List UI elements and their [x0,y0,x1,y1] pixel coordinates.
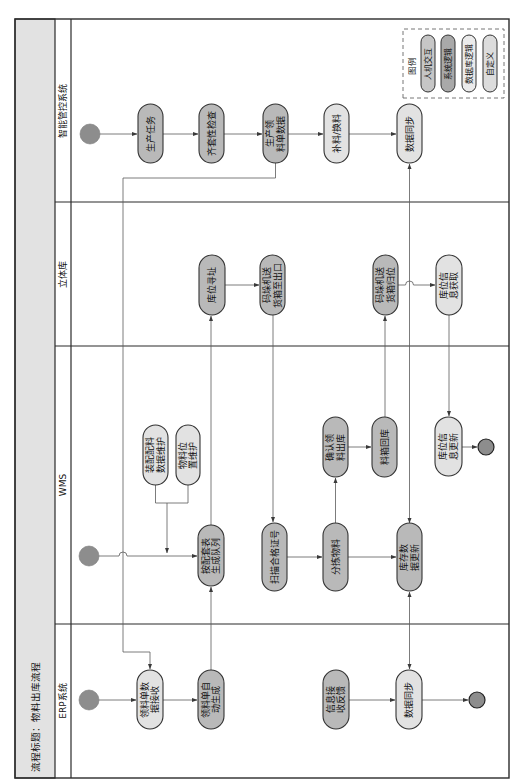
process-node-label-line: 置维护 [187,442,198,469]
process-node: 库位信息获取 [436,255,462,315]
process-node-label-line: 数据同步 [404,116,415,152]
process-node-label: 码垛机送货箱归位 [374,267,395,303]
process-node: 领料单数据接收 [137,670,163,729]
process-node: 扫描合格证号 [262,523,287,591]
process-node-label: 物料位置维护 [177,442,198,469]
process-node-label-line: 确认领 [324,434,335,461]
process-node-label-line: 动生成 [210,686,221,713]
legend: 图例 人机交互 系统逻辑 数据库逻辑 自定义 [403,29,504,98]
process-node-label-line: 据接收 [149,686,160,713]
process-node-label-line: 货箱归位 [385,267,396,303]
legend-title: 图例 [407,57,417,75]
process-node-label-line: 按配套表 [200,538,211,574]
start-node-wms [79,546,99,566]
process-node-label-line: 码垛机送 [374,267,385,303]
legend-label: 数据库逻辑 [464,44,474,84]
edges-layer [99,134,477,700]
process-node: 数据同步 [397,104,422,163]
process-node: 码垛机送货箱至出口 [260,255,285,315]
process-node-label: 生产领料单数据 [264,116,285,152]
process-node-label: 补料/换料 [331,114,342,153]
process-node-label-line: 料出库 [335,434,346,461]
process-node-label: 领料单数据接收 [139,682,160,718]
process-node: 物料位置维护 [176,425,200,485]
process-node-label: 料箱回库 [379,429,390,465]
process-node-label: 码垛机送货箱至出口 [261,263,282,308]
process-node-label: 生产任务 [145,116,156,152]
process-node: 齐套性检查 [199,104,224,163]
process-node-label-line: 数据同步 [403,682,414,718]
process-node: 领料单自动生成 [198,670,224,729]
swimlane-flowchart: 流程标题：物料出库流程 ERP系统 WMS 立体库 智能管控系统 [0,0,522,782]
process-node: 生产领料单数据 [263,104,288,163]
process-node-label-line: 扫描合格证号 [269,530,280,584]
legend-item-human-interaction: 人机交互 [421,35,435,92]
legend-item-system-logic: 系统逻辑 [441,35,455,92]
process-node-label: 分拣物料 [330,539,341,575]
process-node-label-line: 据更新 [409,544,420,571]
end-node-erp [469,692,485,708]
process-node-label-line: 生产任务 [145,116,156,152]
process-node-label-line: 分拣物料 [330,539,341,575]
process-node-label-line: 物料位 [177,442,188,469]
process-node-label-line: 信息接 [325,686,336,713]
process-node-label-line: 生产领 [264,120,275,147]
process-node: 生产任务 [138,104,163,163]
edge-picklist-to-receive [123,163,276,669]
process-node-label: 库位信息获取 [438,272,459,299]
process-node-label: 数据同步 [403,682,414,718]
process-node: 数据同步 [396,670,422,729]
lane-label-asrs: 立体库 [57,261,68,288]
process-node: 库位寻址 [199,255,225,315]
process-node-label: 扫描合格证号 [269,530,280,584]
process-node-label: 确认领料出库 [324,434,345,461]
process-node-label-line: 数据维护 [155,437,166,473]
process-node-label: 装配配料数据维护 [144,437,165,473]
edge-maintenance-merge-to-queue [156,485,189,553]
diagram-canvas: 流程标题：物料出库流程 ERP系统 WMS 立体库 智能管控系统 [15,19,509,778]
process-node-label-line: 补料/换料 [331,114,342,153]
lane-label-control-system: 智能管控系统 [57,84,68,138]
end-node-wms [478,439,494,455]
lane-label-erp: ERP系统 [57,683,68,718]
process-node: 按配套表生成队列 [198,525,224,586]
edge-wms-start-to-queue [99,552,197,556]
process-nodes-layer: 领料单数据接收领料单自动生成信息接收反馈数据同步装配配料数据维护物料位置维护按配… [137,104,462,729]
process-node-label: 按配套表生成队列 [200,538,221,574]
process-node-label-line: 库位信 [438,272,449,299]
process-node-label: 数据同步 [404,116,415,152]
process-node-label: 库位信息更新 [437,433,458,460]
process-node-label: 库位寻址 [206,267,217,303]
legend-item-custom: 自定义 [483,35,497,92]
process-node-label: 库存数据更新 [398,544,419,571]
process-node-label-line: 息更新 [448,433,459,460]
legend-label: 系统逻辑 [443,48,453,80]
process-node: 库存数据更新 [397,523,422,591]
process-node-label-line: 料箱回库 [379,429,390,465]
process-node-label-line: 料单数据 [275,116,286,152]
process-node: 码垛机送货箱归位 [373,255,398,315]
process-node-label-line: 生成队列 [210,538,221,574]
process-node-label-line: 货箱至出口 [272,263,283,308]
process-node: 补料/换料 [324,104,349,163]
process-node: 库位信息更新 [435,417,462,476]
process-node-label-line: 码垛机送 [261,267,272,303]
process-node: 确认领料出库 [323,417,348,477]
process-node-label: 领料单自动生成 [200,682,221,718]
edge-homing-to-locinfo [398,281,435,285]
process-node: 信息接收反馈 [323,670,349,729]
process-node-label-line: 领料单数 [139,682,150,718]
start-node-control-system [80,124,100,144]
process-node-label-line: 领料单自 [200,682,211,718]
process-node-label-line: 库位寻址 [206,267,217,303]
flow-title: 流程标题：物料出库流程 [30,662,41,772]
process-node-label-line: 库位信 [437,433,448,460]
process-node-label-line: 齐套性检查 [206,111,217,156]
legend-label: 人机交互 [423,48,433,80]
process-node-label-line: 收反馈 [335,686,346,713]
process-node-label-line: 装配配料 [144,437,155,473]
process-node-label-line: 库存数 [398,544,409,571]
process-node: 分拣物料 [323,523,348,591]
legend-label: 自定义 [485,52,495,76]
start-node-erp [79,690,99,710]
